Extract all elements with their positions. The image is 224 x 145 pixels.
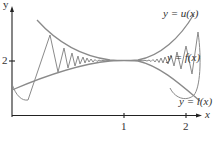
y-axis-label: y bbox=[3, 0, 9, 10]
x-tick-label-2: 2 bbox=[183, 121, 189, 132]
plot-canvas bbox=[0, 0, 224, 145]
y-axis-arrow-icon bbox=[10, 6, 14, 12]
label-f: y = f(x) bbox=[167, 52, 200, 63]
squeeze-theorem-figure: y 2 1 2 x y = u(x) y = f(x) y = l(x) bbox=[0, 0, 224, 145]
y-tick-label-2: 2 bbox=[2, 55, 8, 66]
label-l: y = l(x) bbox=[179, 96, 212, 107]
x-axis-label: x bbox=[205, 109, 210, 120]
x-tick-label-1: 1 bbox=[121, 121, 127, 132]
label-u: y = u(x) bbox=[163, 8, 199, 19]
x-axis-arrow-icon bbox=[196, 114, 202, 118]
curve-l bbox=[12, 60, 200, 101]
